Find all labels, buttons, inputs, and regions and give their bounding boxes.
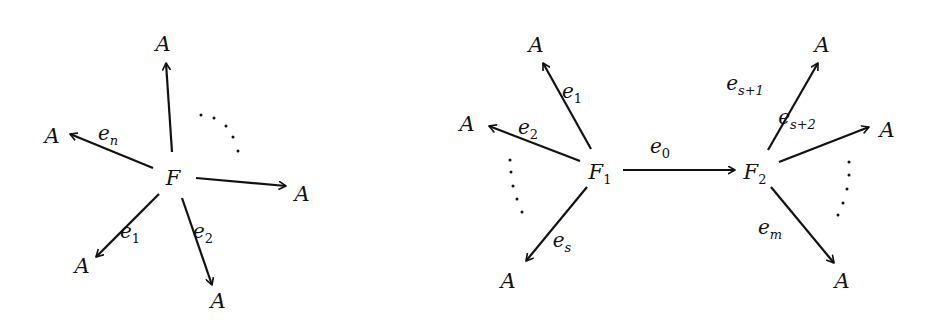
edge-e0-label: e0 (650, 134, 670, 161)
node-A: A (877, 118, 894, 142)
node-A: A (72, 254, 89, 278)
edge-e1 (543, 63, 591, 149)
node-A: A (42, 124, 59, 148)
ellipsis-dot (837, 214, 840, 217)
node-A: A (153, 32, 170, 56)
node-A: A (208, 289, 225, 313)
ellipsis-dot (237, 150, 240, 153)
edge-unlabeled (196, 178, 286, 186)
ellipsis-dot (510, 171, 513, 174)
node-F: F (165, 166, 182, 190)
edge-e1-label: e1 (120, 219, 140, 246)
edge-es+2-label: es+2 (778, 105, 816, 132)
edge-e2-label: e2 (193, 219, 213, 246)
ellipsis-dot (213, 117, 216, 120)
edge-es-label: es (553, 228, 572, 255)
ellipsis-dot (225, 125, 228, 128)
ellipsis-dot (200, 114, 203, 117)
edge-unlabeled (166, 63, 172, 152)
ellipsis-dot (232, 136, 235, 139)
diagram-canvas: FAAAAAene1e2F1F2AAAAAAe1e2ese0es+1es+2em (0, 0, 936, 324)
ellipsis-dot (848, 161, 851, 164)
node-A: A (292, 182, 309, 206)
node-F2: F2 (743, 160, 767, 187)
edge-es+2 (779, 127, 869, 162)
ellipsis-dot (516, 198, 519, 201)
edge-es+1-label: es+1 (726, 71, 764, 98)
ellipsis-dot (848, 174, 851, 177)
node-A: A (526, 33, 543, 57)
ellipsis-dot (509, 159, 512, 162)
edge-em (771, 187, 834, 263)
ellipsis-dot (842, 202, 845, 205)
ellipsis-dot (846, 188, 849, 191)
ellipsis-dot (512, 185, 515, 188)
ellipsis-dot (521, 211, 524, 214)
edge-em-label: em (758, 215, 782, 242)
node-A: A (832, 269, 849, 293)
edge-en-label: en (98, 121, 118, 148)
node-A: A (498, 269, 515, 293)
edge-es+1 (768, 63, 818, 150)
node-F1: F1 (588, 160, 612, 187)
node-A: A (457, 112, 474, 136)
labels: FAAAAAene1e2F1F2AAAAAAe1e2ese0es+1es+2em (42, 32, 894, 313)
edge-e1-label: e1 (562, 79, 582, 106)
node-A: A (812, 33, 829, 57)
edge-e2-label: e2 (518, 115, 538, 142)
